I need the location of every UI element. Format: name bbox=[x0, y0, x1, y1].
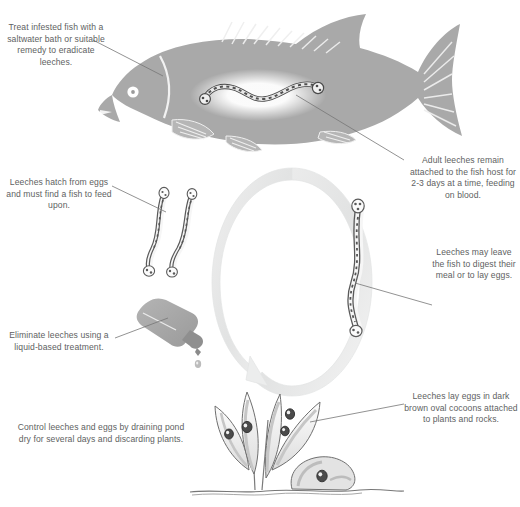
caption-leeches-may-leave: Leeches may leave the fish to digest the… bbox=[430, 247, 518, 282]
diagram-canvas: Treat infested fish with a saltwater bat… bbox=[0, 0, 520, 507]
leader-lay bbox=[310, 404, 404, 422]
plants-and-eggs bbox=[190, 392, 404, 495]
caption-leeches-hatch: Leeches hatch from eggs and must find a … bbox=[4, 177, 114, 212]
life-cycle-ring bbox=[212, 168, 372, 396]
juvenile-leeches bbox=[143, 187, 196, 277]
caption-treat-infested-fish: Treat infested fish with a saltwater bat… bbox=[2, 22, 110, 68]
dropper-bottle bbox=[137, 299, 203, 369]
fish-figure bbox=[98, 14, 462, 152]
caption-control-leeches: Control leeches and eggs by draining pon… bbox=[16, 422, 186, 445]
caption-leeches-lay-eggs: Leeches lay eggs in dark brown oval coco… bbox=[404, 391, 518, 426]
caption-eliminate-leeches: Eliminate leeches using a liquid-based t… bbox=[4, 330, 114, 353]
leader-hatch bbox=[112, 186, 166, 212]
caption-adult-leeches: Adult leeches remain attached to the fis… bbox=[408, 155, 518, 201]
